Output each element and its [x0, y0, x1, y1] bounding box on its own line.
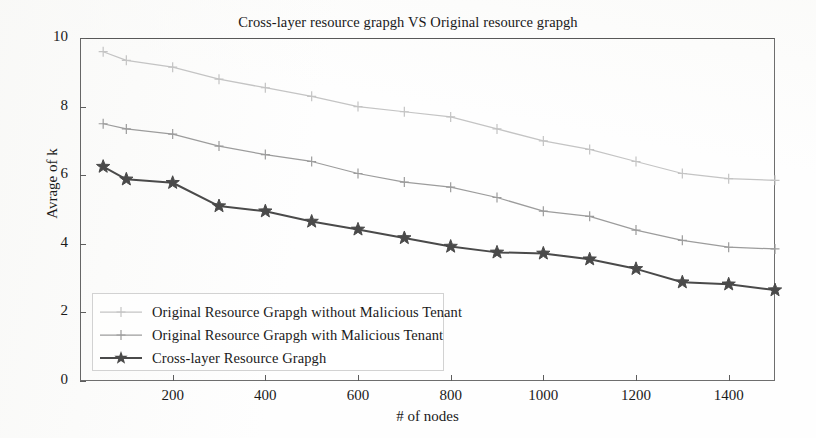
- data-point-marker-plus: [539, 136, 548, 146]
- data-point-marker-plus: [446, 112, 455, 122]
- data-point-marker-plus: [215, 141, 224, 151]
- data-point-marker-star: [490, 245, 503, 258]
- figure-page: Cross-layer resource grapgh VS Original …: [0, 0, 816, 438]
- x-axis-tick-label: 1400: [699, 387, 759, 404]
- data-point-marker-plus: [724, 242, 733, 252]
- y-axis-label: Avrage of k: [44, 114, 61, 254]
- legend-item-label: Cross-layer Resource Grapgh: [152, 350, 326, 367]
- series-3: [97, 160, 782, 296]
- data-point-marker-plus: [400, 107, 409, 117]
- data-point-marker-star: [166, 176, 179, 189]
- y-axis-tick-label: 10: [28, 28, 68, 45]
- data-point-marker-plus: [678, 168, 687, 178]
- data-point-marker-star: [351, 222, 364, 235]
- data-point-marker-star: [398, 231, 411, 244]
- data-point-marker-star: [97, 160, 110, 173]
- data-point-marker-plus: [122, 124, 131, 134]
- data-point-marker-plus: [261, 150, 270, 160]
- x-axis-tick-label: 1000: [513, 387, 573, 404]
- x-axis-tick-label: 800: [421, 387, 481, 404]
- series-line: [103, 167, 775, 290]
- legend-item[interactable]: Original Resource Grapgh without Malicio…: [99, 300, 462, 324]
- y-axis-tick-label: 0: [28, 371, 68, 388]
- x-axis-tick-label: 1200: [606, 387, 666, 404]
- data-point-marker-star: [629, 262, 642, 275]
- data-point-marker-star: [722, 277, 735, 290]
- data-point-marker-plus: [632, 156, 641, 166]
- legend-star-icon: [99, 350, 143, 366]
- data-point-marker-plus: [122, 55, 131, 65]
- data-point-marker-plus: [99, 47, 108, 57]
- legend-item[interactable]: Cross-layer Resource Grapgh: [99, 346, 326, 370]
- data-point-marker-plus: [354, 168, 363, 178]
- data-point-marker-plus: [261, 83, 270, 93]
- y-axis-tick-label: 6: [28, 165, 68, 182]
- y-axis-tick-label: 2: [28, 302, 68, 319]
- legend-item-label: Original Resource Grapgh with Malicious …: [152, 327, 443, 344]
- y-axis-tick-label: 4: [28, 234, 68, 251]
- data-point-marker-star: [120, 172, 133, 185]
- data-point-marker-plus: [724, 174, 733, 184]
- x-axis-label: # of nodes: [80, 408, 775, 425]
- data-point-marker-plus: [446, 182, 455, 192]
- y-axis-tick-mark: [80, 381, 86, 382]
- data-point-marker-plus: [168, 62, 177, 72]
- data-point-marker-star: [537, 246, 550, 259]
- data-point-marker-plus: [771, 244, 780, 254]
- data-point-marker-plus: [400, 177, 409, 187]
- legend-item[interactable]: Original Resource Grapgh with Malicious …: [99, 323, 443, 347]
- y-axis-tick-label: 8: [28, 97, 68, 114]
- data-point-marker-star: [676, 275, 689, 288]
- series-line: [103, 124, 775, 249]
- chart-title: Cross-layer resource grapgh VS Original …: [0, 14, 816, 31]
- data-point-marker-plus: [771, 175, 780, 185]
- data-point-marker-plus: [307, 91, 316, 101]
- data-point-marker-plus: [493, 124, 502, 134]
- data-point-marker-star: [212, 199, 225, 212]
- data-point-marker-star: [259, 204, 272, 217]
- data-point-marker-plus: [585, 144, 594, 154]
- x-axis-tick-label: 200: [143, 387, 203, 404]
- series-line: [103, 52, 775, 181]
- legend-plus-icon: [99, 304, 143, 320]
- data-point-marker-plus: [632, 225, 641, 235]
- legend-item-label: Original Resource Grapgh without Malicio…: [152, 304, 462, 321]
- legend: Original Resource Grapgh without Malicio…: [92, 293, 444, 371]
- x-axis-tick-label: 400: [235, 387, 295, 404]
- legend-plus-icon: [99, 327, 143, 343]
- data-point-marker-plus: [354, 102, 363, 112]
- data-point-marker-plus: [539, 206, 548, 216]
- series-2: [99, 119, 780, 254]
- x-axis-tick-label: 600: [328, 387, 388, 404]
- data-point-marker-star: [305, 215, 318, 228]
- data-point-marker-plus: [493, 192, 502, 202]
- data-point-marker-star: [444, 240, 457, 253]
- data-point-marker-star: [768, 283, 781, 296]
- data-point-marker-plus: [215, 74, 224, 84]
- series-1: [99, 47, 780, 186]
- data-point-marker-star: [583, 252, 596, 265]
- data-point-marker-plus: [99, 119, 108, 129]
- data-point-marker-plus: [168, 129, 177, 139]
- data-point-marker-plus: [585, 211, 594, 221]
- data-point-marker-plus: [678, 235, 687, 245]
- data-point-marker-plus: [307, 156, 316, 166]
